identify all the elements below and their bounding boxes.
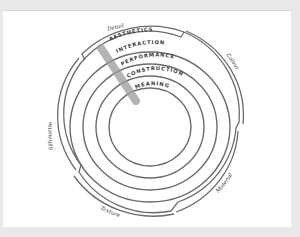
label-colour: Colour: [225, 52, 241, 71]
ring-interaction: [70, 52, 230, 202]
ring-meaning: [109, 88, 191, 166]
label-silhouette: Silhouette: [46, 121, 54, 150]
concentric-layers-diagram: AESTHETICS INTERACTION PERFORMANCE CONST…: [0, 0, 300, 237]
ring-construction: [96, 76, 204, 178]
